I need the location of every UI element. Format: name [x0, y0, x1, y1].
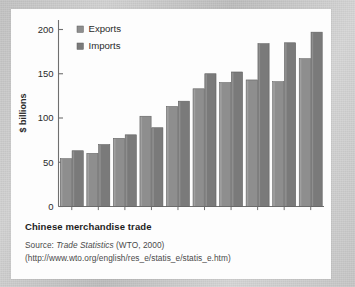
x-tick-label-1990: 1990	[61, 212, 82, 215]
chart-svg: 050100150200 $ billions 1990199119921993…	[11, 9, 331, 214]
figure-caption: Chinese merchandise trade Source: Trade …	[25, 221, 321, 264]
bar-highlight	[126, 135, 128, 206]
bar-highlight	[114, 139, 116, 206]
x-tick-label-1991: 1991	[88, 212, 109, 215]
source-suffix: (WTO, 2000)	[114, 240, 165, 250]
bar-highlight	[61, 159, 63, 206]
bar-highlight	[99, 145, 101, 206]
y-tick-label: 0	[48, 201, 53, 212]
x-tick-label-1996: 1996	[221, 212, 242, 215]
bar-highlight	[152, 128, 154, 206]
bar-highlight	[312, 33, 314, 206]
y-tick-label: 50	[43, 157, 54, 168]
source-title-italic: Trade Statistics	[56, 240, 113, 250]
caption-url: (http://www.wto.org/english/res_e/statis…	[25, 252, 321, 265]
y-tick-label: 150	[38, 68, 54, 79]
x-tick-label-1995: 1995	[194, 212, 215, 215]
y-axis-label: $ billions	[18, 93, 28, 132]
x-tick-label-1993: 1993	[141, 212, 162, 215]
caption-title: Chinese merchandise trade	[25, 221, 321, 232]
bar-highlight	[140, 117, 142, 206]
x-tick-label-1994: 1994	[168, 212, 189, 215]
legend-swatch-exports	[77, 26, 83, 32]
x-axis-ticks: 1990199119921993199419951996199719981999	[61, 207, 321, 215]
x-tick-label-1997: 1997	[247, 212, 268, 215]
bar-highlight	[87, 154, 89, 206]
x-tick-label-1998: 1998	[274, 212, 295, 215]
bar-highlight	[285, 43, 287, 206]
y-tick-label: 100	[38, 112, 54, 123]
bar-highlight	[258, 44, 260, 206]
bar-highlight	[247, 80, 249, 205]
bar-group	[60, 32, 322, 206]
x-tick-label-1992: 1992	[115, 212, 136, 215]
caption-source: Source: Trade Statistics (WTO, 2000)	[25, 239, 321, 252]
legend-label-exports: Exports	[89, 23, 122, 34]
bar-highlight	[232, 73, 234, 206]
scanned-page-background: 050100150200 $ billions 1990199119921993…	[0, 0, 355, 287]
bar-highlight	[73, 151, 75, 206]
legend-label-imports: Imports	[89, 40, 121, 51]
bar-highlight	[205, 74, 207, 206]
bar-highlight	[300, 59, 302, 206]
bar-highlight	[220, 83, 222, 206]
bar-highlight	[194, 89, 196, 206]
chart-legend: ExportsImports	[77, 23, 121, 51]
source-prefix: Source:	[25, 240, 56, 250]
y-axis-ticks: 050100150200	[38, 24, 63, 212]
y-tick-label: 200	[38, 24, 54, 35]
bar-highlight	[273, 82, 275, 206]
figure-card: 050100150200 $ billions 1990199119921993…	[11, 9, 331, 279]
legend-swatch-imports	[77, 43, 83, 49]
bar-highlight	[167, 107, 169, 206]
x-tick-label-1999: 1999	[300, 212, 321, 215]
bar-highlight	[179, 102, 181, 206]
bar-chart: 050100150200 $ billions 1990199119921993…	[11, 9, 331, 214]
